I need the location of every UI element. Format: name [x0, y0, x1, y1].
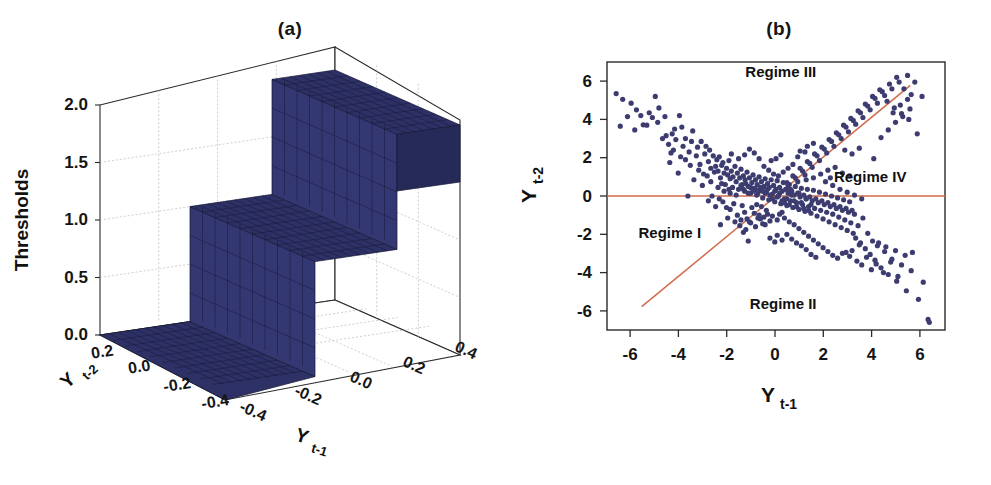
yt2-label-sub: t-2 [79, 361, 101, 383]
scatter-point [909, 268, 914, 273]
panel-b-title: (b) [724, 18, 834, 40]
scatter-point [889, 86, 894, 91]
scatter-point [799, 200, 804, 205]
scatter-point [795, 179, 800, 184]
scatter-point [761, 164, 766, 169]
scatter-point [789, 192, 794, 197]
scatter-point [737, 223, 742, 228]
scatter-point [770, 214, 775, 219]
scatter-point [870, 238, 875, 243]
scatter-point [758, 185, 763, 190]
y-tick-6: 6 [583, 72, 592, 91]
scatter-point [718, 175, 723, 180]
scatter-point [738, 217, 743, 222]
scatter-point [747, 147, 752, 152]
scatter-point [662, 114, 667, 119]
scatter-point [805, 144, 810, 149]
scatter-point [847, 199, 852, 204]
scatter-point [868, 107, 873, 112]
scatter-point [897, 80, 902, 85]
scatter-point [694, 153, 699, 158]
scatter-point [667, 160, 672, 165]
scatter-point [836, 214, 841, 219]
scatter-point [753, 224, 758, 229]
yt1-tick-0: -0.4 [237, 398, 269, 425]
scatter-point [854, 258, 859, 263]
scatter-point [916, 297, 921, 302]
scatter-point [819, 145, 824, 150]
scatter-point [767, 236, 772, 241]
scatter-point [792, 198, 797, 203]
scatter-point [865, 231, 870, 236]
y-axis-label: Y t-2 [517, 167, 546, 203]
scatter-point [775, 233, 780, 238]
z-tick-2: 1.0 [64, 210, 88, 229]
scatter-point [912, 80, 917, 85]
yt2-tick-0: 0.2 [90, 341, 115, 361]
scatter-point [708, 179, 713, 184]
y-axis-label-sub: t-2 [530, 167, 546, 184]
scatter-point [847, 254, 852, 259]
scatter-point [886, 272, 891, 277]
scatter-point [749, 205, 754, 210]
scatter-point [814, 214, 819, 219]
scatter-point [713, 164, 718, 169]
scatter-point [760, 221, 765, 226]
scatter-point [696, 168, 701, 173]
scatter-point [855, 223, 860, 228]
scatter-point [748, 185, 753, 190]
scatter-point [842, 217, 847, 222]
y-tick-neg6: -6 [577, 302, 592, 321]
scatter-point [632, 127, 637, 132]
scatter-point [899, 262, 904, 267]
scatter-point [808, 252, 813, 257]
scatter-point [795, 154, 800, 159]
scatter-point [775, 178, 780, 183]
scatter-point [653, 94, 658, 99]
yt2-tick-1: 0.0 [127, 356, 152, 376]
scatter-point [695, 145, 700, 150]
scatter-point [767, 192, 772, 197]
scatter-point [794, 240, 799, 245]
scatter-point [620, 97, 625, 102]
scatter-point [851, 231, 856, 236]
scatter-point [717, 154, 722, 159]
scatter-point [894, 75, 899, 80]
scatter-point [825, 168, 830, 173]
scatter-point [625, 114, 630, 119]
scatter-point [860, 215, 865, 220]
scatter-point [729, 169, 734, 174]
x-axis-label: Y t-1 [761, 383, 797, 412]
scatter-point [784, 196, 789, 201]
scatter-point [857, 146, 862, 151]
yt2-tick-2: -0.2 [162, 374, 192, 395]
scatter-point [712, 169, 717, 174]
scatter-point [776, 173, 781, 178]
scatter-point [754, 202, 759, 207]
scatter-point [869, 267, 874, 272]
yt1-tick-1: -0.2 [292, 382, 324, 409]
y-axis-ticks: 6 4 2 0 -2 -4 -6 [577, 72, 607, 321]
scatter-point [811, 141, 816, 146]
z-tick-1: 0.5 [64, 268, 88, 287]
scatter-point [841, 123, 846, 128]
scatter-point [775, 217, 780, 222]
scatter-point [845, 190, 850, 195]
scatter-point [820, 216, 825, 221]
scatter-point [713, 204, 718, 209]
scatter-point [690, 128, 695, 133]
scatter-point [724, 166, 729, 171]
scatter-point [801, 206, 806, 211]
scatter-point [771, 171, 776, 176]
scatter-point [801, 230, 806, 235]
scatter-point [735, 213, 740, 218]
scatter-point [811, 188, 816, 193]
scatter-point [894, 279, 899, 284]
scatter-point [860, 115, 865, 120]
scatter-point [796, 191, 801, 196]
scatter-point [746, 238, 751, 243]
scatter-point [757, 156, 762, 161]
scatter-point [782, 215, 787, 220]
scatter-point [824, 150, 829, 155]
scatter-point [700, 183, 705, 188]
